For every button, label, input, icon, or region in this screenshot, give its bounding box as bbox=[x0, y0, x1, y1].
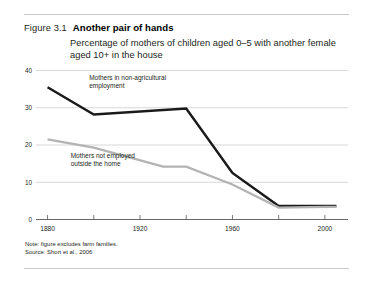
series-line-1 bbox=[48, 139, 337, 207]
x-tick-label-1960: 1960 bbox=[225, 225, 240, 232]
y-tick-label-0: 0 bbox=[28, 216, 32, 223]
x-axis-tick-labels-group: 1880192019602000 bbox=[40, 225, 332, 232]
y-tick-label-30: 30 bbox=[25, 104, 33, 111]
y-axis-tick-labels-group: 010203040 bbox=[25, 67, 33, 223]
figure-note: Note: figure excludes farm families. bbox=[25, 240, 118, 248]
figure-source: Source: Short et al., 2006 bbox=[25, 248, 118, 256]
series-annotation-0-line-0: Mothers in non-agricultural bbox=[89, 74, 167, 82]
x-tick-label-1920: 1920 bbox=[133, 225, 148, 232]
figure-notes: Note: figure excludes farm families. Sou… bbox=[25, 240, 118, 256]
figure-page: Figure 3.1 Another pair of hands Percent… bbox=[0, 0, 373, 284]
y-tick-label-10: 10 bbox=[25, 179, 33, 186]
bottom-divider-rule bbox=[24, 268, 349, 269]
x-axis-group bbox=[36, 215, 348, 220]
series-annotation-1-line-0: Mothers not employed bbox=[71, 152, 136, 160]
series-group bbox=[48, 87, 337, 207]
series-annotation-0-line-1: employment bbox=[89, 82, 125, 90]
series-annotation-1-line-1: outside the home bbox=[71, 160, 121, 167]
y-tick-label-20: 20 bbox=[25, 141, 33, 148]
x-tick-label-2000: 2000 bbox=[318, 225, 333, 232]
x-tick-label-1880: 1880 bbox=[40, 225, 55, 232]
y-tick-label-40: 40 bbox=[25, 67, 33, 74]
series-annotations-group: Mothers in non-agriculturalemploymentMot… bbox=[71, 74, 167, 168]
